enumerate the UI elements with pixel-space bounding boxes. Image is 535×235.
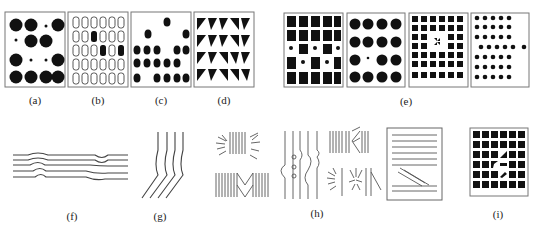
figure-svg [0,0,535,235]
panel-e1-squares [284,13,343,87]
label-d: (d) [204,94,244,106]
label-e: (e) [386,95,426,107]
panel-f-wavy-lines [13,153,128,180]
label-h: (h) [297,207,337,219]
panel-d-triangles [194,12,254,87]
label-c: (c) [141,94,181,106]
label-g: (g) [140,210,180,222]
panel-b-ovals [68,12,128,87]
panel-i-distorted-grid [470,128,528,196]
label-b: (b) [78,94,118,106]
label-f: (f) [52,210,92,222]
panel-h-line-textures [216,127,442,200]
panel-e4-dots [471,13,529,87]
panel-a-dots [5,12,65,87]
figure-canvas [0,0,535,235]
label-a: (a) [15,94,55,106]
panel-e3-pinwheel [409,13,468,87]
panel-g-bent-lines [142,132,183,198]
label-i: (i) [478,208,518,220]
panel-c-hexagons [131,12,191,87]
panel-e2-circles [347,13,405,87]
